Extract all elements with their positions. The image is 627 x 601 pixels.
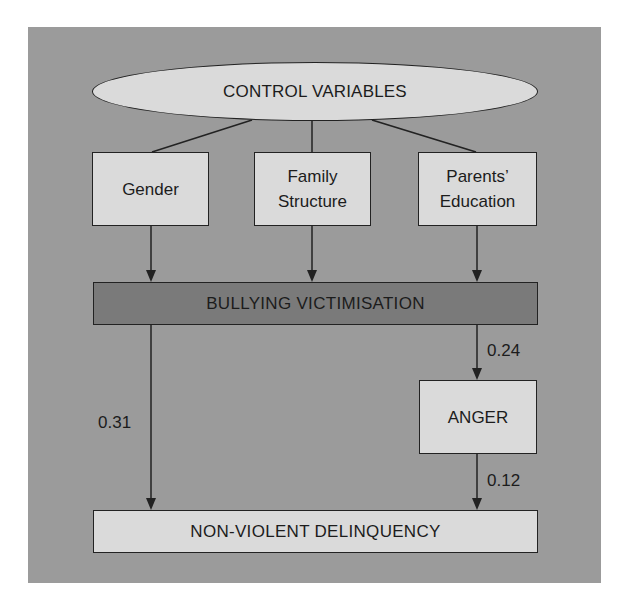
gender-node: Gender [92,152,209,226]
gender-label: Gender [122,177,179,202]
edge-anger-to-delinquency [472,454,482,510]
coefficient-bullying-to-anger: 0.24 [487,341,520,361]
parents-education-label-line1: Parents’ [446,164,508,189]
edge-control-to-gender [152,120,252,152]
non-violent-delinquency-label: NON-VIOLENT DELINQUENCY [190,522,440,542]
coefficient-bullying-to-delinquency: 0.31 [98,413,131,433]
edge-control-to-parents [372,120,476,152]
edge-bullying-to-anger [472,325,482,380]
family-structure-node: Family Structure [254,152,371,226]
edge-family-to-bullying [307,226,317,282]
family-structure-label-line1: Family [287,164,337,189]
parents-education-node: Parents’ Education [418,152,537,226]
control-variables-node: CONTROL VARIABLES [92,62,538,121]
bullying-victimisation-node: BULLYING VICTIMISATION [93,282,538,325]
edge-bullying-to-delinquency [146,325,156,510]
edge-parents-to-bullying [472,226,482,282]
anger-node: ANGER [419,380,537,454]
coefficient-anger-to-delinquency: 0.12 [487,471,520,491]
family-structure-label-line2: Structure [278,189,347,214]
edge-gender-to-bullying [146,226,156,282]
non-violent-delinquency-node: NON-VIOLENT DELINQUENCY [93,510,538,553]
bullying-victimisation-label: BULLYING VICTIMISATION [206,294,425,314]
parents-education-label-line2: Education [440,189,516,214]
anger-label: ANGER [448,405,508,430]
control-variables-label: CONTROL VARIABLES [223,82,407,102]
